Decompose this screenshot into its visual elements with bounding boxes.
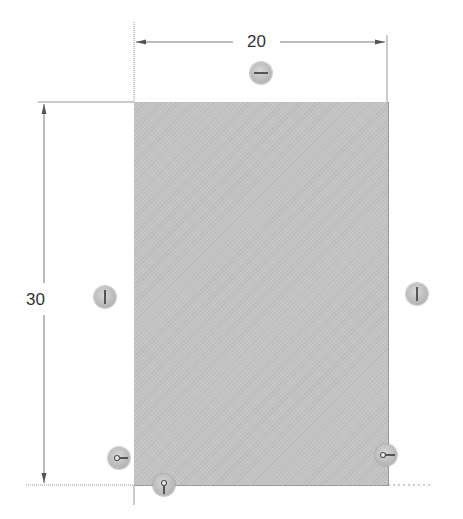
- vertical-relation-icon[interactable]: [94, 286, 116, 308]
- sketch-canvas[interactable]: 20 30: [0, 0, 463, 519]
- sketch-rectangle[interactable]: [134, 102, 389, 486]
- coincident-horizontal-icon[interactable]: [108, 447, 130, 469]
- vertical-relation-icon[interactable]: [406, 283, 428, 305]
- height-dimension-label[interactable]: 30: [23, 291, 48, 309]
- horizontal-relation-icon[interactable]: [250, 62, 272, 84]
- width-dimension-label[interactable]: 20: [244, 33, 269, 51]
- coincident-horizontal-icon[interactable]: [375, 444, 397, 466]
- coincident-vertical-icon[interactable]: [153, 474, 175, 496]
